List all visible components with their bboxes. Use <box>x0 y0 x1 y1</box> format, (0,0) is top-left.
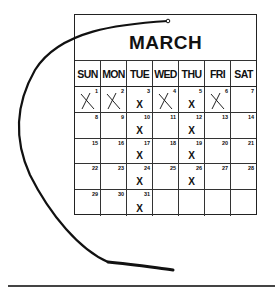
week-row: 8910X1112X1314 <box>75 113 256 139</box>
day-number: 9 <box>121 114 124 120</box>
day-number: 12 <box>196 114 202 120</box>
day-cell: 12X <box>179 113 205 138</box>
cross-out-icon <box>77 89 97 111</box>
day-cell: 22 <box>75 164 101 189</box>
weekday-sat: SAT <box>231 61 256 86</box>
x-mark-icon: X <box>179 125 204 136</box>
day-number: 8 <box>95 114 98 120</box>
week-row: 123X45X67 <box>75 87 256 113</box>
day-cell: 29 <box>75 190 101 216</box>
weekday-fri: FRI <box>205 61 231 86</box>
x-mark-icon: X <box>127 176 152 187</box>
day-cell: 25 <box>153 164 179 189</box>
day-number: 3 <box>147 88 150 94</box>
day-number: 30 <box>118 191 124 197</box>
day-cell: 19X <box>179 139 205 164</box>
day-cell: 26X <box>179 164 205 189</box>
x-mark-icon: X <box>127 150 152 161</box>
x-mark-icon: X <box>127 125 152 136</box>
day-number: 28 <box>248 165 254 171</box>
day-cell: 5X <box>179 87 205 112</box>
day-number: 31 <box>144 191 150 197</box>
day-cell: 4 <box>153 87 179 112</box>
day-cell: 2 <box>101 87 127 112</box>
day-number: 29 <box>92 191 98 197</box>
day-cell: 27 <box>205 164 231 189</box>
x-mark-icon: X <box>179 99 204 110</box>
calendar: MARCH SUN MON TUE WED THU FRI SAT 123X45… <box>74 14 257 215</box>
cross-out-icon <box>103 89 123 111</box>
day-cell: 8 <box>75 113 101 138</box>
day-number: 17 <box>144 140 150 146</box>
weekday-tue: TUE <box>127 61 153 86</box>
day-number: 13 <box>222 114 228 120</box>
cross-out-icon <box>155 89 175 111</box>
day-cell <box>231 190 256 216</box>
day-cell <box>205 190 231 216</box>
day-number: 11 <box>170 114 176 120</box>
day-number: 24 <box>144 165 150 171</box>
day-cell: 7 <box>231 87 256 112</box>
horizontal-rule <box>8 285 275 287</box>
day-cell: 11 <box>153 113 179 138</box>
day-cell: 10X <box>127 113 153 138</box>
x-mark-icon: X <box>179 150 204 161</box>
day-number: 22 <box>92 165 98 171</box>
day-cell: 15 <box>75 139 101 164</box>
day-number: 5 <box>199 88 202 94</box>
day-cell: 14 <box>231 113 256 138</box>
month-title: MARCH <box>75 15 256 61</box>
day-cell: 3X <box>127 87 153 112</box>
weekday-sun: SUN <box>75 61 101 86</box>
day-number: 15 <box>92 140 98 146</box>
weekday-wed: WED <box>153 61 179 86</box>
day-number: 7 <box>251 88 254 94</box>
day-number: 25 <box>170 165 176 171</box>
weekday-mon: MON <box>101 61 127 86</box>
week-row: 293031X <box>75 190 256 216</box>
day-cell: 6 <box>205 87 231 112</box>
day-cell: 16 <box>101 139 127 164</box>
day-number: 20 <box>222 140 228 146</box>
day-number: 18 <box>170 140 176 146</box>
day-cell: 31X <box>127 190 153 216</box>
day-cell: 21 <box>231 139 256 164</box>
day-cell: 17X <box>127 139 153 164</box>
day-cell: 24X <box>127 164 153 189</box>
day-number: 14 <box>248 114 254 120</box>
day-number: 10 <box>144 114 150 120</box>
day-cell: 9 <box>101 113 127 138</box>
x-mark-icon: X <box>179 176 204 187</box>
weekday-header-row: SUN MON TUE WED THU FRI SAT <box>75 61 256 87</box>
cross-out-icon <box>207 89 227 111</box>
day-cell: 13 <box>205 113 231 138</box>
day-cell: 20 <box>205 139 231 164</box>
day-cell: 18 <box>153 139 179 164</box>
wire-end-icon <box>108 262 173 270</box>
day-number: 16 <box>118 140 124 146</box>
day-cell: 30 <box>101 190 127 216</box>
day-cell: 23 <box>101 164 127 189</box>
day-number: 21 <box>248 140 254 146</box>
day-cell <box>179 190 205 216</box>
weekday-thu: THU <box>179 61 205 86</box>
day-number: 27 <box>222 165 228 171</box>
day-cell <box>153 190 179 216</box>
day-number: 26 <box>196 165 202 171</box>
day-number: 23 <box>118 165 124 171</box>
day-cell: 1 <box>75 87 101 112</box>
x-mark-icon: X <box>127 203 152 214</box>
week-row: 151617X1819X2021 <box>75 139 256 165</box>
x-mark-icon: X <box>127 99 152 110</box>
calendar-grid: SUN MON TUE WED THU FRI SAT 123X45X67891… <box>75 61 256 216</box>
day-number: 19 <box>196 140 202 146</box>
day-cell: 28 <box>231 164 256 189</box>
week-row: 222324X2526X2728 <box>75 164 256 190</box>
